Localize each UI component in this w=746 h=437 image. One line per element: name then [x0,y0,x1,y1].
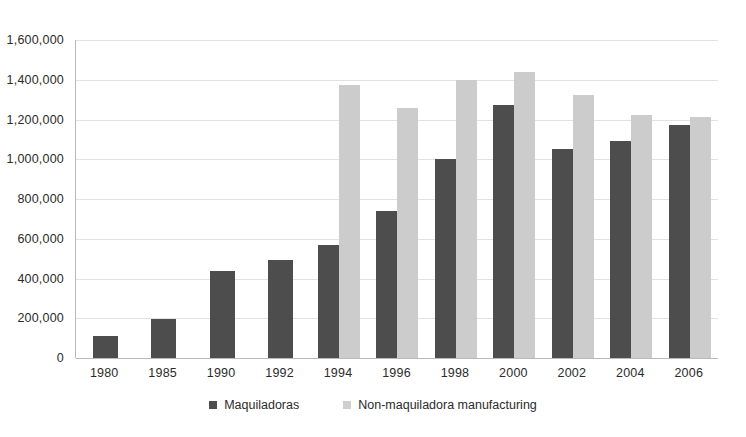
bar-group [251,40,309,358]
bars-layer [76,40,718,358]
plot-area-wrapper [75,40,718,358]
bar-group [602,40,660,358]
y-axis-tick-label: 0 [0,351,64,365]
bar-maquiladoras [493,105,514,358]
legend-swatch-icon [209,401,217,409]
bar-group [661,40,719,358]
bar-non-maquiladora [631,115,652,358]
plot-area [75,40,718,358]
bar-maquiladoras [93,336,118,358]
chart-legend: MaquiladorasNon-maquiladora manufacturin… [0,398,746,412]
y-axis-tick-label: 1,400,000 [0,73,64,87]
bar-group [193,40,251,358]
axis-baseline [76,358,718,359]
y-axis-tick-label: 1,200,000 [0,113,64,127]
bar-group [134,40,192,358]
bar-group [76,40,134,358]
bar-maquiladoras [268,260,293,358]
bar-group [485,40,543,358]
bar-non-maquiladora [573,95,594,358]
y-axis-tick-label: 400,000 [0,272,64,286]
bar-maquiladoras [318,245,339,358]
y-axis-tick-label: 200,000 [0,311,64,325]
bar-non-maquiladora [339,85,360,358]
bar-maquiladoras [669,125,690,358]
bar-maquiladoras [610,141,631,358]
bar-maquiladoras [435,159,456,358]
bar-non-maquiladora [456,80,477,358]
bar-chart: 1,600,0001,400,0001,200,0001,000,000800,… [0,0,746,437]
y-axis-tick-label: 1,600,000 [0,33,64,47]
bar-maquiladoras [151,319,176,358]
legend-item[interactable]: Maquiladoras [209,398,299,412]
y-axis-tick-label: 1,000,000 [0,152,64,166]
y-axis-tick-label: 800,000 [0,192,64,206]
bar-group [427,40,485,358]
bar-group [368,40,426,358]
y-axis-tick-label: 600,000 [0,232,64,246]
legend-item[interactable]: Non-maquiladora manufacturing [343,398,537,412]
bar-maquiladoras [552,149,573,358]
bar-maquiladoras [210,271,235,358]
bar-non-maquiladora [514,72,535,358]
bar-non-maquiladora [690,117,711,358]
legend-swatch-icon [343,401,351,409]
bar-group [310,40,368,358]
bar-non-maquiladora [397,108,418,358]
legend-label: Non-maquiladora manufacturing [358,398,537,412]
bar-maquiladoras [376,211,397,358]
x-axis-tick-label: 2006 [649,366,729,380]
legend-label: Maquiladoras [224,398,299,412]
bar-group [544,40,602,358]
